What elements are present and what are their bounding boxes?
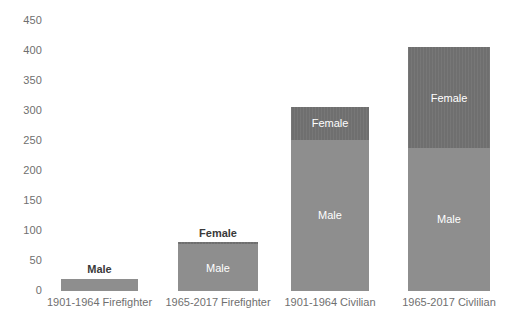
bar-segment-male[interactable]: Male (291, 140, 369, 291)
bar-stack: FemaleMale (408, 47, 490, 291)
y-axis-tick-label: 450 (23, 15, 42, 26)
y-axis-tick-label: 400 (23, 45, 42, 56)
plot-area: MaleFemaleMaleFemaleMaleFemaleMale (50, 0, 507, 291)
y-axis-tick-label: 150 (23, 195, 42, 206)
stacked-bar-chart: 450400350300250200150100500 MaleFemaleMa… (0, 0, 507, 325)
segment-value-label-outside: Male (87, 263, 111, 275)
y-axis-tick-label: 300 (23, 105, 42, 116)
x-axis-category-label: 1901-1964 Firefighter (43, 296, 156, 309)
y-axis-tick-label: 100 (23, 225, 42, 236)
x-axis-category-label: 1901-1964 Civilian (273, 296, 387, 309)
x-axis-category-label: 1965-2017 Civlilian (390, 296, 507, 309)
bar-stack: Male (61, 279, 138, 291)
segment-value-label: Male (318, 209, 342, 221)
segment-value-label-outside: Female (199, 227, 237, 239)
segment-value-label: Male (437, 213, 461, 225)
bar-segment-male[interactable]: Male (178, 244, 258, 291)
y-axis-tick-label: 250 (23, 135, 42, 146)
y-axis-tick-label: 0 (36, 285, 42, 296)
bar-group[interactable]: FemaleMale (291, 0, 369, 291)
bar-stack: FemaleMale (178, 242, 258, 291)
bar-group[interactable]: Male (61, 0, 138, 291)
segment-value-label: Male (206, 262, 230, 274)
x-axis-category-label: 1965-2017 Firefighter (160, 296, 276, 309)
y-axis-tick-label: 200 (23, 165, 42, 176)
bar-segment-male[interactable]: Male (61, 279, 138, 291)
segment-value-label: Female (431, 92, 468, 104)
bar-stack: FemaleMale (291, 107, 369, 291)
y-axis-tick-label: 50 (30, 255, 42, 266)
bar-group[interactable]: FemaleMale (408, 0, 490, 291)
bar-segment-female[interactable]: Female (408, 47, 490, 147)
bar-group[interactable]: FemaleMale (178, 0, 258, 291)
bar-segment-female[interactable]: Female (291, 107, 369, 140)
x-axis-category-labels: 1901-1964 Firefighter1965-2017 Firefight… (50, 296, 507, 316)
y-axis-tick-label: 350 (23, 75, 42, 86)
segment-value-label: Female (312, 117, 349, 129)
bar-segment-male[interactable]: Male (408, 148, 490, 291)
y-axis: 450400350300250200150100500 (0, 0, 50, 300)
